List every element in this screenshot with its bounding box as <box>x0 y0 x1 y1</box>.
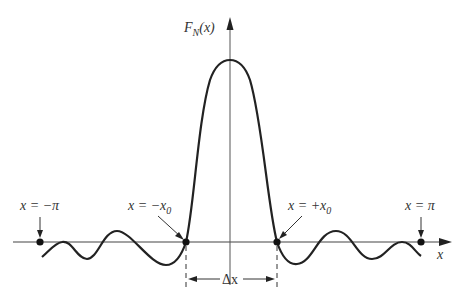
arrow-left-icon <box>188 276 197 282</box>
x-axis-arrow-icon <box>439 238 452 246</box>
y-axis-arrow-icon <box>227 17 234 30</box>
label-neg-x0: x = −x0 <box>127 198 171 216</box>
x-axis <box>13 238 452 246</box>
kernel-diagram: x FN(x) x = −π x = π x = −x0 x = +x0 Δx <box>0 0 459 302</box>
label-pos-x0: x = +x0 <box>287 198 331 216</box>
label-pos-pi: x = π <box>404 198 436 213</box>
arrow-down-icon <box>418 230 424 238</box>
kernel-curve <box>42 60 421 265</box>
label-delta-x: Δx <box>222 272 238 287</box>
point-pos-pi <box>417 238 424 245</box>
label-neg-pi: x = −π <box>19 198 60 213</box>
point-neg-pi <box>36 238 43 245</box>
arrow-right-icon <box>266 276 275 282</box>
y-axis-label: FN(x) <box>183 20 215 38</box>
arrow-down-icon <box>37 230 43 238</box>
y-axis <box>227 17 234 285</box>
point-pos-x0 <box>273 238 280 245</box>
x-axis-label: x <box>436 247 444 262</box>
